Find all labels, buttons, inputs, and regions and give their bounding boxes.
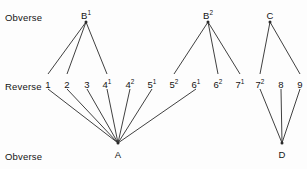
node-label-text: 3 bbox=[84, 79, 89, 90]
node-label-text: C bbox=[267, 10, 274, 21]
node-label-text: 9 bbox=[297, 79, 302, 90]
edge-b1-1 bbox=[48, 22, 86, 74]
reverse-node-71: 71 bbox=[236, 79, 245, 90]
reverse-node-52: 52 bbox=[170, 79, 179, 90]
edge-a-51 bbox=[118, 89, 152, 143]
node-label-text: 2 bbox=[64, 79, 69, 90]
reverse-node-51: 51 bbox=[148, 79, 157, 90]
reverse-node-3: 3 bbox=[84, 79, 89, 90]
reverse-node-62: 62 bbox=[214, 79, 223, 90]
node-label-superscript: 1 bbox=[241, 78, 245, 85]
node-label-text: 1 bbox=[45, 79, 50, 90]
node-label-superscript: 2 bbox=[261, 78, 265, 85]
node-label-superscript: 1 bbox=[108, 78, 112, 85]
obverse-node-b2: B2 bbox=[203, 10, 213, 21]
reverse-node-2: 2 bbox=[64, 79, 69, 90]
edge-c-72 bbox=[260, 22, 270, 74]
obverse-node-a: A bbox=[115, 149, 121, 160]
reverse-node-41: 41 bbox=[103, 79, 112, 90]
node-label-text: D bbox=[279, 149, 286, 160]
row-label-obverse-bottom: Obverse bbox=[5, 151, 42, 162]
row-label-obverse-top: Obverse bbox=[5, 12, 42, 23]
obverse-node-d: D bbox=[279, 149, 286, 160]
edge-b1-41 bbox=[86, 22, 107, 74]
junction-dot-d bbox=[281, 142, 284, 145]
reverse-node-61: 61 bbox=[192, 79, 201, 90]
row-label-reverse: Reverse bbox=[5, 81, 42, 92]
edge-a-61 bbox=[118, 89, 196, 143]
die-link-diagram: Obverse Reverse Obverse B1B2C12341425152… bbox=[0, 0, 307, 169]
edge-d-8 bbox=[281, 89, 282, 143]
node-label-superscript: 2 bbox=[209, 9, 213, 16]
edge-a-3 bbox=[87, 89, 118, 143]
edge-a-1 bbox=[48, 89, 118, 143]
node-label-superscript: 2 bbox=[175, 78, 179, 85]
node-label-superscript: 1 bbox=[197, 78, 201, 85]
edge-b2-52 bbox=[174, 22, 208, 74]
node-label-text: 8 bbox=[278, 79, 283, 90]
node-label-superscript: 2 bbox=[131, 78, 135, 85]
obverse-node-c: C bbox=[267, 10, 274, 21]
obverse-node-b1: B1 bbox=[81, 10, 91, 21]
node-label-superscript: 1 bbox=[153, 78, 157, 85]
reverse-node-42: 42 bbox=[126, 79, 135, 90]
reverse-node-9: 9 bbox=[297, 79, 302, 90]
reverse-node-1: 1 bbox=[45, 79, 50, 90]
node-label-superscript: 2 bbox=[219, 78, 223, 85]
edge-d-72 bbox=[260, 89, 282, 143]
reverse-node-72: 72 bbox=[256, 79, 265, 90]
reverse-node-8: 8 bbox=[278, 79, 283, 90]
node-label-text: A bbox=[115, 149, 121, 160]
junction-dot-a bbox=[117, 142, 120, 145]
edge-b1-2 bbox=[67, 22, 86, 74]
edge-d-9 bbox=[282, 89, 300, 143]
node-label-superscript: 1 bbox=[87, 9, 91, 16]
edge-a-42 bbox=[118, 89, 130, 143]
edge-c-9 bbox=[270, 22, 300, 74]
edge-a-2 bbox=[67, 89, 118, 143]
edge-a-41 bbox=[107, 89, 118, 143]
